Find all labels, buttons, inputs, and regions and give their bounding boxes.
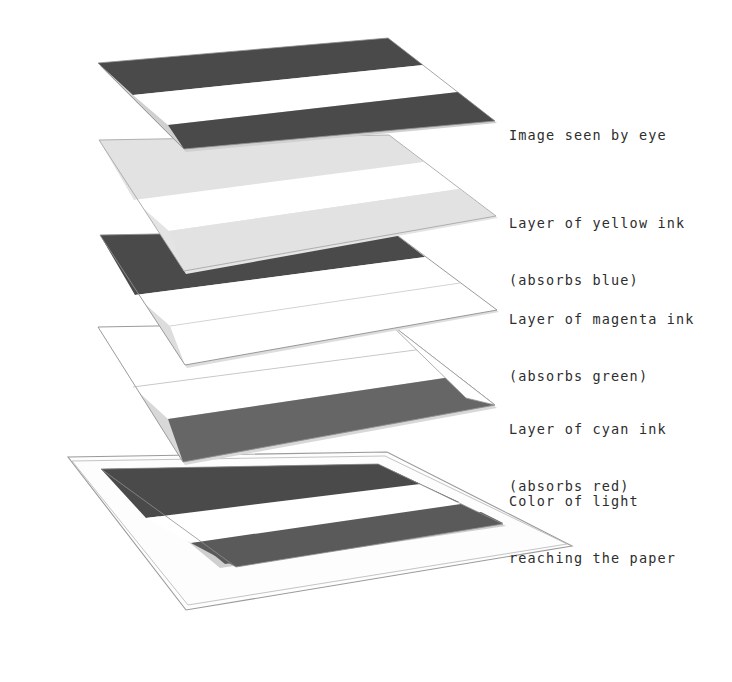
label-line: Layer of yellow ink [509,214,685,233]
layer-image-seen-by-eye [98,38,497,152]
label-paper: Color of light reaching the paper [509,454,676,606]
label-line: Image seen by eye [509,126,667,145]
label-image-seen-by-eye: Image seen by eye [509,88,667,183]
label-line: reaching the paper [509,549,676,568]
label-line: Color of light [509,492,676,511]
label-line: Layer of cyan ink [509,420,667,439]
layer-paper [68,452,572,610]
label-line: Layer of magenta ink [509,310,695,329]
diagram-stage: Image seen by eye Layer of yellow ink (a… [0,0,732,682]
